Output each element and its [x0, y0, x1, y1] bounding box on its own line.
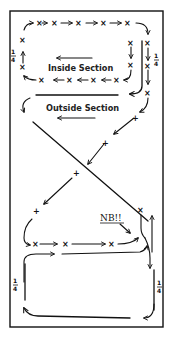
marker-plus: +	[132, 114, 139, 123]
marker-x: ×	[127, 39, 134, 48]
fraction-numerator: 1	[157, 279, 161, 286]
marker-x: ×	[19, 63, 26, 72]
bottom-loop	[24, 264, 154, 318]
inside-section-label: Inside Section	[48, 63, 113, 73]
fraction-denominator: 4	[11, 56, 15, 63]
marker-x: ×	[75, 19, 82, 28]
marker-x: ×	[144, 89, 151, 98]
marker-x: ×	[100, 19, 107, 28]
marker-plus: +	[102, 139, 109, 148]
marker-x: ×	[38, 76, 45, 85]
marker-x: ×	[137, 206, 144, 215]
marker-plus: +	[33, 207, 40, 216]
marker-x: ×	[144, 39, 151, 48]
fraction-denominator: 4	[154, 60, 158, 67]
marker-x: ×	[62, 240, 69, 249]
fraction-numerator: 1	[154, 52, 158, 59]
marker-x: ×	[144, 62, 151, 71]
outside-section-label: Outside Section	[46, 103, 119, 113]
fraction-bottom-left: 1 4	[13, 277, 18, 292]
nb-label: NB!!	[100, 213, 122, 223]
fraction-denominator: 4	[157, 287, 161, 294]
marker-x: ×	[108, 240, 115, 249]
inside-markers: × × × × × × × × × × × × ×	[19, 19, 134, 85]
nb-note: NB!!	[100, 213, 124, 223]
lower-track	[24, 215, 152, 282]
marker-x: ×	[66, 76, 73, 85]
marker-x: ×	[19, 36, 26, 45]
movement-diagram: × × × × × × × × × × × × × Inside Section…	[0, 0, 171, 338]
fraction-bottom-right: 1 4	[157, 279, 162, 294]
fraction-top-right: 1 4	[154, 52, 159, 67]
marker-x: ×	[127, 61, 134, 70]
fraction-denominator: 4	[13, 285, 17, 292]
marker-x: ×	[90, 76, 97, 85]
marker-x: ×	[32, 240, 39, 249]
fraction-numerator: 1	[13, 277, 17, 284]
marker-x: ×	[36, 19, 43, 28]
marker-x: ×	[51, 19, 58, 28]
diagonal-paths	[24, 118, 148, 245]
fraction-numerator: 1	[11, 48, 15, 55]
marker-x: ×	[113, 76, 120, 85]
marker-x: ×	[124, 19, 131, 28]
fraction-top-left: 1 4	[11, 48, 16, 63]
marker-plus: +	[73, 169, 80, 178]
